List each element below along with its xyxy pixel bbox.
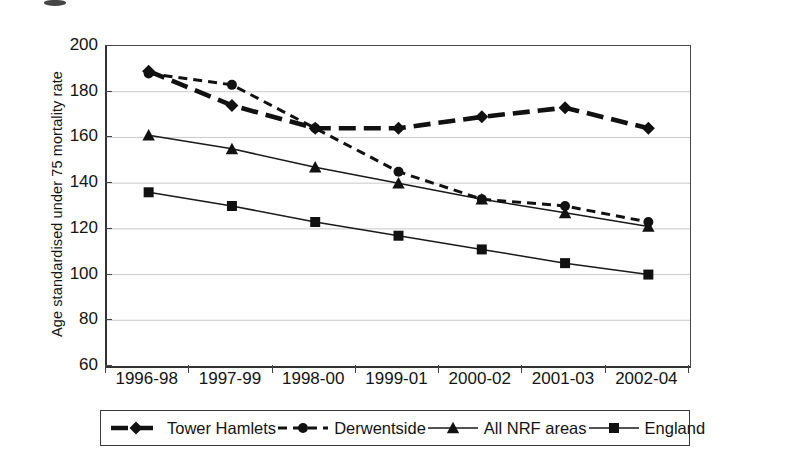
x-axis-tick-mark <box>438 365 439 373</box>
legend-label: Tower Hamlets <box>167 420 276 437</box>
y-axis-tick-label: 200 <box>54 36 98 53</box>
x-axis-tick-mark <box>355 365 356 373</box>
data-point-marker <box>477 194 487 204</box>
x-axis-tick-label: 2002-04 <box>615 370 677 387</box>
x-axis-tick-label: 1997-99 <box>199 370 261 387</box>
plot-area <box>105 45 691 368</box>
legend-item-derwentside: Derwentside <box>276 420 426 437</box>
data-point-marker <box>225 99 238 112</box>
legend-label: All NRF areas <box>484 420 587 437</box>
data-point-marker <box>560 258 570 268</box>
data-point-marker <box>475 110 488 123</box>
data-point-marker <box>309 122 322 135</box>
x-axis-tick-labels: 1996-981997-991998-001999-012000-022001-… <box>105 370 688 394</box>
data-point-marker <box>392 122 405 135</box>
y-axis-tick-mark <box>105 91 112 92</box>
chart-legend: Tower HamletsDerwentsideAll NRF areasEng… <box>100 410 690 446</box>
x-axis-tick-mark <box>188 365 189 373</box>
data-point-marker <box>227 80 237 90</box>
y-axis-tick-mark <box>105 45 112 46</box>
chart-figure: Age standardised under 75 mortality rate… <box>0 0 800 470</box>
data-point-marker <box>142 65 155 78</box>
series-line-tower-hamlets <box>149 71 649 128</box>
data-point-marker <box>560 201 570 211</box>
data-point-marker <box>559 101 572 114</box>
x-axis-tick-label: 1999-01 <box>365 370 427 387</box>
y-axis-tick-mark <box>105 319 112 320</box>
data-point-marker <box>144 187 154 197</box>
plot-svg <box>107 46 690 366</box>
y-axis-tick-label: 120 <box>54 219 98 236</box>
legend-swatch-diamond-icon <box>109 420 163 436</box>
y-axis-tick-label: 80 <box>54 310 98 327</box>
legend-label: Derwentside <box>334 420 426 437</box>
x-axis-tick-mark <box>688 365 689 373</box>
data-point-marker <box>394 231 404 241</box>
data-point-marker <box>477 244 487 254</box>
y-axis-tick-mark <box>105 228 112 229</box>
x-axis-tick-label: 2000-02 <box>449 370 511 387</box>
y-axis-tick-mark <box>105 274 112 275</box>
legend-item-england: England <box>587 420 706 437</box>
y-axis-tick-mark <box>105 365 112 366</box>
legend-item-tower-hamlets: Tower Hamlets <box>109 420 276 437</box>
y-axis-tick-label: 100 <box>54 265 98 282</box>
data-point-marker <box>310 217 320 227</box>
data-point-marker <box>643 270 653 280</box>
y-axis-tick-label: 140 <box>54 173 98 190</box>
legend-swatch-circle-icon <box>276 420 330 436</box>
x-axis-tick-label: 1998-00 <box>282 370 344 387</box>
data-point-marker <box>642 122 655 135</box>
data-point-marker <box>142 129 154 140</box>
x-axis-tick-mark <box>521 365 522 373</box>
legend-item-all-nrf-areas: All NRF areas <box>426 420 587 437</box>
data-point-marker <box>227 201 237 211</box>
data-point-marker <box>643 217 653 227</box>
y-axis-tick-label: 180 <box>54 82 98 99</box>
legend-label: England <box>645 420 706 437</box>
x-axis-tick-label: 1996-98 <box>115 370 177 387</box>
data-point-marker <box>394 167 404 177</box>
x-axis-tick-label: 2001-03 <box>532 370 594 387</box>
y-axis-tick-label: 60 <box>54 356 98 373</box>
x-axis-tick-mark <box>272 365 273 373</box>
y-axis-tick-mark <box>105 182 112 183</box>
x-axis-tick-mark <box>605 365 606 373</box>
y-axis-tick-label: 160 <box>54 127 98 144</box>
x-axis-tick-mark <box>105 365 106 373</box>
y-axis-tick-mark <box>105 136 112 137</box>
legend-swatch-triangle-icon <box>426 420 480 436</box>
y-axis-tick-labels: 6080100120140160180200 <box>48 0 98 470</box>
legend-swatch-square-icon <box>587 420 641 436</box>
